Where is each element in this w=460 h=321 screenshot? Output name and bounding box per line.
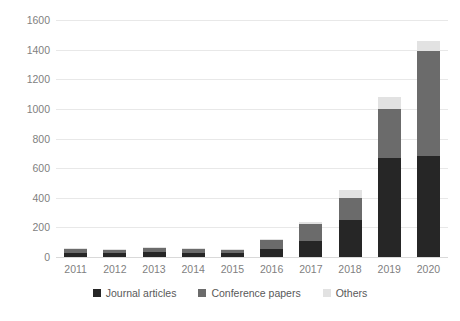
- bar-slot[interactable]: [370, 20, 409, 257]
- y-axis-tick-label: 1600: [4, 15, 50, 26]
- bar-segment-journal-articles[interactable]: [260, 249, 283, 257]
- x-axis-tick-label: 2017: [291, 259, 330, 279]
- y-axis: 02004006008001000120014001600: [0, 20, 50, 257]
- bar-stack[interactable]: [378, 97, 401, 257]
- x-axis-tick-label: 2020: [409, 259, 448, 279]
- bar-segment-others[interactable]: [378, 97, 401, 109]
- bar-stack[interactable]: [182, 248, 205, 257]
- legend-item[interactable]: Journal articles: [93, 288, 177, 299]
- x-axis-tick-label: 2011: [56, 259, 95, 279]
- bar-slot[interactable]: [213, 20, 252, 257]
- legend-item[interactable]: Others: [323, 288, 368, 299]
- y-axis-tick-label: 1000: [4, 104, 50, 115]
- bar-slot[interactable]: [134, 20, 173, 257]
- bar-slot[interactable]: [95, 20, 134, 257]
- bar-slot[interactable]: [291, 20, 330, 257]
- legend-swatch-icon: [323, 289, 331, 297]
- x-axis-tick-label: 2012: [95, 259, 134, 279]
- bar-slot[interactable]: [174, 20, 213, 257]
- bar-segment-journal-articles[interactable]: [299, 241, 322, 257]
- chart-legend: Journal articlesConference papersOthers: [0, 288, 460, 299]
- y-axis-tick-label: 400: [4, 193, 50, 204]
- bar-segment-journal-articles[interactable]: [143, 252, 166, 257]
- bar-segment-conference-papers[interactable]: [260, 240, 283, 249]
- bar-stack[interactable]: [143, 247, 166, 257]
- legend-label: Journal articles: [106, 288, 177, 299]
- bar-slot[interactable]: [330, 20, 369, 257]
- bar-stack[interactable]: [64, 248, 87, 257]
- bar-stack[interactable]: [299, 222, 322, 257]
- bar-segment-others[interactable]: [417, 41, 440, 51]
- bar-segment-journal-articles[interactable]: [417, 156, 440, 257]
- bar-segment-journal-articles[interactable]: [339, 220, 362, 257]
- y-axis-tick-label: 200: [4, 222, 50, 233]
- bar-segment-conference-papers[interactable]: [378, 109, 401, 158]
- legend-item[interactable]: Conference papers: [198, 288, 300, 299]
- gridline: [56, 257, 448, 258]
- y-axis-tick-label: 1200: [4, 74, 50, 85]
- bar-segment-journal-articles[interactable]: [378, 158, 401, 257]
- x-axis-tick-label: 2016: [252, 259, 291, 279]
- bar-segment-others[interactable]: [339, 190, 362, 197]
- x-axis: 2011201220132014201520162017201820192020: [56, 259, 448, 279]
- bar-segment-journal-articles[interactable]: [182, 253, 205, 257]
- x-axis-tick-label: 2014: [174, 259, 213, 279]
- bar-stack[interactable]: [417, 41, 440, 257]
- bar-segment-conference-papers[interactable]: [299, 224, 322, 240]
- x-axis-tick-label: 2018: [330, 259, 369, 279]
- bar-stack[interactable]: [339, 190, 362, 257]
- bar-stack[interactable]: [260, 239, 283, 257]
- x-axis-tick-label: 2019: [370, 259, 409, 279]
- bar-segment-journal-articles[interactable]: [64, 253, 87, 257]
- x-axis-tick-label: 2013: [134, 259, 173, 279]
- bars-layer: [56, 20, 448, 257]
- legend-label: Others: [336, 288, 368, 299]
- bar-stack[interactable]: [221, 249, 244, 257]
- y-axis-tick-label: 600: [4, 163, 50, 174]
- bar-segment-conference-papers[interactable]: [339, 198, 362, 220]
- bar-slot[interactable]: [409, 20, 448, 257]
- y-axis-tick-label: 0: [4, 252, 50, 263]
- y-axis-tick-label: 800: [4, 133, 50, 144]
- legend-swatch-icon: [93, 289, 101, 297]
- legend-swatch-icon: [198, 289, 206, 297]
- bar-slot[interactable]: [252, 20, 291, 257]
- bar-segment-journal-articles[interactable]: [221, 253, 244, 257]
- bar-slot[interactable]: [56, 20, 95, 257]
- y-axis-tick-label: 1400: [4, 44, 50, 55]
- stacked-bar-chart: 02004006008001000120014001600 2011201220…: [0, 0, 460, 321]
- bar-stack[interactable]: [103, 249, 126, 257]
- bar-segment-journal-articles[interactable]: [103, 253, 126, 257]
- bar-segment-conference-papers[interactable]: [417, 51, 440, 156]
- legend-label: Conference papers: [211, 288, 300, 299]
- x-axis-tick-label: 2015: [213, 259, 252, 279]
